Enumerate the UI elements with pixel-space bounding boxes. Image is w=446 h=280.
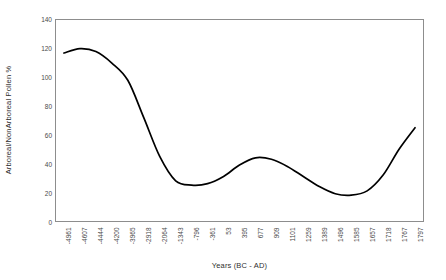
- y-tick-label: 60: [26, 132, 52, 139]
- y-tick-label: 100: [26, 74, 52, 81]
- y-tick-label: 80: [26, 103, 52, 110]
- x-axis-title: Years (BC - AD): [55, 261, 424, 270]
- y-tick-label: 40: [26, 161, 52, 168]
- x-axis-tick-labels: -4961-4607-4444-4200-3965-2918-2064-1343…: [55, 223, 424, 263]
- plot-canvas: [56, 20, 423, 221]
- plot-area: [55, 19, 424, 222]
- y-tick-label: 140: [26, 16, 52, 23]
- data-line-series: [64, 49, 415, 196]
- y-axis-tick-labels: 020406080100120140: [22, 0, 52, 280]
- chart-figure: Arboreal/NonArboreal Pollen % 0204060801…: [0, 0, 446, 280]
- y-tick-label: 120: [26, 45, 52, 52]
- y-tick-label: 20: [26, 190, 52, 197]
- y-axis-title: Arboreal/NonArboreal Pollen %: [1, 19, 17, 222]
- y-tick-label: 0: [26, 219, 52, 226]
